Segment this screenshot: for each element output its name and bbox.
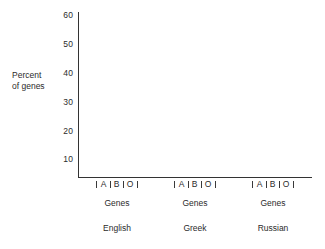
x-group-russian: A B O Genes Russian	[234, 178, 312, 233]
y-tick-label: 20	[0, 127, 73, 136]
tick-mark-icon	[293, 181, 294, 188]
x-group-language: English	[78, 223, 156, 233]
plot-area	[79, 12, 312, 177]
tick-mark-icon	[215, 181, 216, 188]
tick-letter-b: B	[270, 179, 276, 190]
x-group-caption: Genes	[234, 198, 312, 208]
tick-mark-icon	[279, 181, 280, 188]
tick-mark-icon	[174, 181, 175, 188]
x-group-language: Russian	[234, 223, 312, 233]
tick-mark-icon	[201, 181, 202, 188]
tick-letter-b: B	[114, 179, 120, 190]
tick-letter-a: A	[179, 179, 185, 190]
y-tick-label: 60	[0, 11, 73, 20]
tick-letter-a: A	[101, 179, 107, 190]
y-tick-label: 50	[0, 40, 73, 49]
x-group-greek: A B O Genes Greek	[156, 178, 234, 233]
x-group-ticks: A B O	[234, 179, 312, 190]
tick-mark-icon	[137, 181, 138, 188]
x-group-english: A B O Genes English	[78, 178, 156, 233]
x-group-language: Greek	[156, 223, 234, 233]
chart-canvas: Percent of genes 60 50 40 30 20 10 A B O…	[0, 0, 325, 249]
tick-mark-icon	[96, 181, 97, 188]
y-tick-label: 10	[0, 155, 73, 164]
tick-letter-b: B	[192, 179, 198, 190]
tick-mark-icon	[252, 181, 253, 188]
tick-mark-icon	[266, 181, 267, 188]
x-group-ticks: A B O	[78, 179, 156, 190]
tick-letter-a: A	[257, 179, 263, 190]
tick-letter-o: O	[127, 179, 134, 190]
tick-mark-icon	[188, 181, 189, 188]
y-tick-label: 40	[0, 69, 73, 78]
x-axis-groups: A B O Genes English A B O Genes Greek	[78, 178, 312, 249]
x-group-caption: Genes	[78, 198, 156, 208]
tick-letter-o: O	[283, 179, 290, 190]
y-axis-tick-labels: 60 50 40 30 20 10	[0, 0, 73, 178]
tick-letter-o: O	[205, 179, 212, 190]
y-tick-label: 30	[0, 98, 73, 107]
x-group-caption: Genes	[156, 198, 234, 208]
x-group-ticks: A B O	[156, 179, 234, 190]
tick-mark-icon	[110, 181, 111, 188]
tick-mark-icon	[123, 181, 124, 188]
